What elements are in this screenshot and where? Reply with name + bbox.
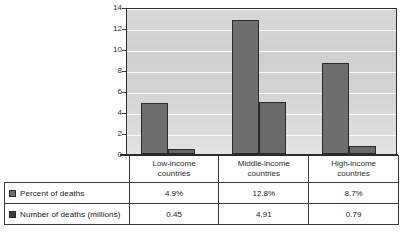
bar-chart: 02468101214 (0, 0, 408, 160)
bar-percent-1 (232, 20, 259, 154)
bar-percent-2 (322, 63, 349, 154)
column-header-line2: countries (130, 169, 219, 179)
table-cell-value: 4.9% (129, 183, 219, 204)
table-cell-value: 0.79 (309, 204, 399, 225)
legend-row-label-cell: Number of deaths (millions) (5, 204, 130, 225)
legend-swatch-percent-icon (9, 190, 16, 197)
y-tick-label: 12 (113, 25, 122, 33)
bar-number-2 (349, 146, 376, 154)
bar-number-1 (259, 102, 286, 154)
table-cell-value: 12.8% (219, 183, 309, 204)
table-cell-value: 4.91 (219, 204, 309, 225)
column-header-line2: countries (219, 169, 308, 179)
legend-label: Number of deaths (millions) (20, 210, 121, 219)
y-tick-label: 10 (113, 46, 122, 54)
table-column-header: Middle-incomecountries (219, 155, 309, 183)
table-cell-value: 8.7% (309, 183, 399, 204)
y-axis-labels: 02468101214 (100, 0, 122, 160)
column-header-line1: High-income (331, 159, 376, 168)
plot-area (126, 8, 397, 155)
data-table-region: Low-incomecountriesMiddle-incomecountrie… (0, 155, 408, 234)
column-header-line1: Middle-income (238, 159, 290, 168)
table-header-row: Low-incomecountriesMiddle-incomecountrie… (5, 155, 399, 183)
column-header-line2: countries (309, 169, 398, 179)
table-header-blank (5, 155, 130, 183)
data-table: Low-incomecountriesMiddle-incomecountrie… (4, 155, 399, 225)
table-row: Percent of deaths4.9%12.8%8.7% (5, 183, 399, 204)
column-header-line1: Low-income (152, 159, 195, 168)
bar-percent-0 (141, 103, 168, 154)
table-cell-value: 0.45 (129, 204, 219, 225)
table-column-header: High-incomecountries (309, 155, 399, 183)
chart-page: 02468101214 Low-incomecountriesMiddle-in… (0, 0, 408, 234)
table-row: Number of deaths (millions)0.454.910.79 (5, 204, 399, 225)
y-tick-label: 14 (113, 4, 122, 12)
legend-swatch-number-icon (9, 211, 16, 218)
legend-row-label-cell: Percent of deaths (5, 183, 130, 204)
bars-layer (127, 9, 396, 154)
table-column-header: Low-incomecountries (129, 155, 219, 183)
legend-label: Percent of deaths (20, 189, 84, 198)
